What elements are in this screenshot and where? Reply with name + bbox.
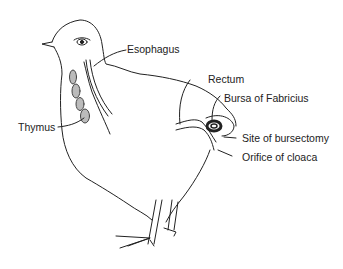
rectum-leader: [179, 80, 190, 124]
label-rectum: Rectum: [208, 74, 244, 85]
label-bursa-of-fabricius: Bursa of Fabricius: [224, 93, 309, 104]
cloaca-leader: [218, 150, 232, 156]
label-esophagus: Esophagus: [127, 44, 180, 55]
leg-left: [148, 200, 162, 244]
thymus-lobes: [70, 70, 90, 123]
label-thymus: Thymus: [18, 122, 55, 133]
beak: [42, 42, 54, 47]
esophagus-leader: [94, 50, 126, 66]
bursa-of-fabricius: [207, 121, 221, 131]
label-site-of-bursectomy: Site of bursectomy: [242, 133, 329, 144]
bursectomy-leader: [224, 137, 236, 138]
chick-anatomy-diagram: Esophagus Thymus Rectum Bursa of Fabrici…: [0, 0, 343, 269]
label-orifice-of-cloaca: Orifice of cloaca: [242, 152, 317, 163]
belly-outline: [166, 150, 210, 222]
leg-right: [168, 200, 178, 230]
